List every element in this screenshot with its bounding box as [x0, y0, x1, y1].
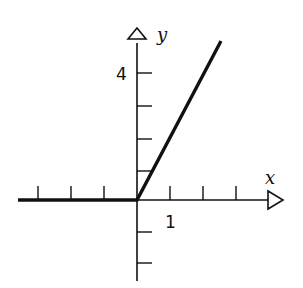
y-axis-arrow-icon	[128, 28, 146, 39]
x-axis-arrow-icon	[268, 191, 283, 209]
chart: 4 1 y x	[0, 0, 303, 288]
x-tick-label-1: 1	[165, 212, 176, 232]
y-axis-label: y	[156, 24, 168, 45]
y-ticks	[137, 73, 152, 263]
y-tick-label-4: 4	[116, 64, 127, 84]
x-axis-label: x	[265, 167, 275, 188]
